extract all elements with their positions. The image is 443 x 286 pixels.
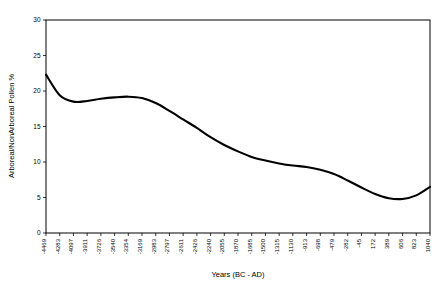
y-tick-label: 10 bbox=[33, 158, 41, 165]
x-tick-label: -2426 bbox=[192, 238, 198, 254]
x-tick-label: -3354 bbox=[123, 238, 129, 254]
x-tick-label: -2240 bbox=[206, 238, 212, 254]
x-tick-label: -4283 bbox=[55, 238, 61, 254]
y-tick-label: 0 bbox=[37, 229, 41, 236]
x-tick-label: -2055 bbox=[219, 238, 225, 254]
plot-frame bbox=[46, 20, 430, 233]
x-axis-title: Years (BC - AD) bbox=[211, 270, 265, 279]
x-tick-label: -2611 bbox=[178, 238, 184, 254]
y-tick-label: 5 bbox=[37, 194, 41, 201]
pollen-line-chart: 051015202530 -4469-4283-4097-3911-3726-3… bbox=[0, 0, 443, 286]
x-tick-label: -282 bbox=[343, 238, 349, 251]
x-tick-label: -1130 bbox=[288, 238, 294, 254]
x-tick-label: -1500 bbox=[260, 238, 266, 254]
x-tick-label: -3726 bbox=[96, 238, 102, 254]
x-tick-label: -479 bbox=[329, 238, 335, 251]
x-tick-label: -1315 bbox=[274, 238, 280, 254]
x-tick-label: 172 bbox=[370, 238, 376, 249]
x-tick-label: 1040 bbox=[425, 238, 431, 252]
x-tick-label: -1870 bbox=[233, 238, 239, 254]
x-tick-label: 606 bbox=[398, 238, 404, 249]
y-tick-label: 30 bbox=[33, 16, 41, 23]
x-tick-label: -4469 bbox=[41, 238, 47, 254]
x-tick-label: -913 bbox=[302, 238, 308, 251]
x-tick-label: -698 bbox=[315, 238, 321, 251]
chart-container: 051015202530 -4469-4283-4097-3911-3726-3… bbox=[0, 0, 443, 286]
x-tick-label: 389 bbox=[384, 238, 390, 249]
x-tick-label: -3540 bbox=[110, 238, 116, 254]
x-tick-label: -3169 bbox=[137, 238, 143, 254]
x-tick-label: -45 bbox=[356, 238, 362, 247]
x-tick-label: -2797 bbox=[164, 238, 170, 254]
y-tick-label: 25 bbox=[33, 52, 41, 59]
x-tick-label: 823 bbox=[411, 238, 417, 249]
x-tick-label: -3911 bbox=[82, 238, 88, 254]
x-tick-label: -2983 bbox=[151, 238, 157, 254]
x-tick-label: -1685 bbox=[247, 238, 253, 254]
x-tick-label: -4097 bbox=[68, 238, 74, 254]
y-tick-label: 15 bbox=[33, 123, 41, 130]
y-tick-label: 20 bbox=[33, 87, 41, 94]
y-axis-title: Arboreal/NonArboreal Pollen % bbox=[7, 74, 16, 179]
